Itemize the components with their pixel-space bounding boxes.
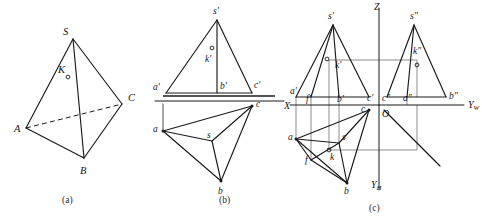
panel-c-top-edge-a_t-s_t xyxy=(296,139,339,143)
panel-c-z-label: Z xyxy=(374,1,380,12)
panel-c-front-label-b_f: b' xyxy=(337,94,345,104)
panel-b-top-edge-a_t-b_t xyxy=(163,131,221,181)
panel-c-front-k-marker xyxy=(325,57,329,61)
panel-c-side-label-b_s: b" xyxy=(449,91,459,101)
panel-c-top-dot-c xyxy=(368,109,371,112)
panel-c-top-label-k_t: k xyxy=(330,152,335,162)
panel-b-point-k-marker xyxy=(210,46,214,50)
panel-c-front-label-k_f: k' xyxy=(335,60,342,70)
panel-a-edge-SB xyxy=(73,39,84,158)
panel-c-origin-label: O xyxy=(382,108,389,119)
panel-b-top-edge-a_t-c_t xyxy=(163,106,252,131)
panel-c-yw-label: YW xyxy=(468,99,481,111)
descriptive-geometry-figure: SABCKs'a'b'c'k'abcss'a'f'b'c'k's"c"a"b"k… xyxy=(0,0,490,224)
panel-c-x-label: X xyxy=(283,100,291,111)
panel-c-top-edge-b_t-c_t xyxy=(347,110,369,183)
panel-b-front-label-b_f: b' xyxy=(220,81,228,91)
panel-a-label-s: S xyxy=(63,26,69,37)
panel-c-top-label-b_t: b xyxy=(344,186,349,196)
panel-c-yh-label: YH xyxy=(371,179,383,191)
panel-c-front-label-a_f: a' xyxy=(290,86,298,96)
panel-a-edge-SC xyxy=(73,39,122,104)
panel-b-top-edge-a_t-s_t xyxy=(163,131,212,141)
panel-c-yh-label-subscript: H xyxy=(376,184,383,191)
caption-panel-c: (c) xyxy=(369,203,380,214)
panel-c-side-label-c_s: c" xyxy=(382,93,391,103)
panel-c-miter-line xyxy=(384,110,440,166)
panel-b-front-label-a_f: a' xyxy=(153,82,161,92)
caption-panel-a: (a) xyxy=(62,195,73,206)
panel-c-top-label-s_t: s xyxy=(342,132,346,142)
panel-c-front-label-c_f: c' xyxy=(367,93,374,103)
panel-b-front-label-c_f: c' xyxy=(254,80,261,90)
panel-c-side-label-a_s: a" xyxy=(403,93,413,103)
panel-b-top-label-a_t: a xyxy=(153,124,158,134)
panel-c-top-dot-a xyxy=(295,138,298,141)
panel-a-label-c: C xyxy=(128,92,136,103)
panel-c-side-label-k_s: k" xyxy=(413,46,422,56)
panel-b-front-label-k_f: k' xyxy=(205,54,212,64)
panel-c-yw-label-subscript: W xyxy=(474,104,481,111)
figure-root: SABCKs'a'b'c'k'abcss'a'f'b'c'k's"c"a"b"k… xyxy=(0,0,490,224)
panel-c-top-edge-a_t-c_t xyxy=(296,110,369,139)
panel-c-side-edge-s_s-b_s xyxy=(414,25,446,97)
panel-c-top-dot-b xyxy=(346,182,349,185)
panel-c-top-edge-f_t-b_t xyxy=(311,160,347,183)
panel-c-top-label-a_t: a xyxy=(288,132,293,142)
panel-b-top-label-s_t: s xyxy=(207,130,211,140)
panel-a-label-b: B xyxy=(80,165,87,176)
panel-c-front-label-s_f: s' xyxy=(328,11,335,21)
panel-b-front-label-s_f: s' xyxy=(213,6,220,16)
panel-b-top-dot-c xyxy=(251,105,254,108)
panel-a-edge-SA xyxy=(26,39,73,128)
caption-panel-b: (b) xyxy=(219,195,230,206)
panel-c-top-edge-f_t-s_t xyxy=(311,143,339,160)
panel-a-label-a: A xyxy=(13,123,21,134)
panel-a-point-k-marker xyxy=(66,75,70,79)
panel-c-side-label-s_s: s" xyxy=(410,11,419,21)
panel-a-label-k: K xyxy=(57,64,66,75)
panel-b-top-edge-b_t-c_t xyxy=(221,106,252,181)
panel-a-edge-AB xyxy=(26,128,84,158)
panel-b-top-dot-b xyxy=(220,180,223,183)
